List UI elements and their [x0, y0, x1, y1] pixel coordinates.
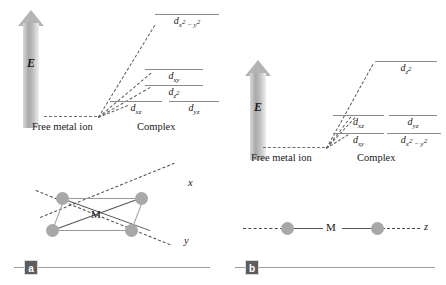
footer-rule-b	[235, 267, 435, 268]
panel-badge-a: a	[24, 260, 38, 275]
linear-geometry: M z	[223, 195, 446, 250]
bond-top	[62, 198, 141, 199]
axis-z-dashed-left	[243, 228, 283, 229]
level-label-dxy-b: dxy	[333, 134, 384, 148]
level-label-dz2-b: dz2	[375, 62, 437, 76]
axis-label-z: z	[424, 221, 428, 232]
free-metal-ion-label-b: Free metal ion	[251, 152, 312, 163]
energy-axis-label-b: E	[247, 100, 269, 115]
level-label-dx2-y2-b: dx2 − y2	[387, 134, 441, 148]
axis-z-dashed-right	[382, 228, 420, 229]
ligand-node	[371, 222, 384, 235]
level-label-dyz-b: dyz	[389, 116, 437, 130]
bond-bottom	[52, 230, 131, 231]
metal-center-label-a: M	[91, 208, 101, 220]
ligand-node	[56, 192, 69, 205]
level-label-dxy-a: dxy	[145, 70, 203, 84]
axis-label-x: x	[188, 177, 193, 188]
complex-label-b: Complex	[357, 152, 396, 163]
free-ion-baseline-b	[263, 147, 325, 148]
ligand-node	[125, 224, 138, 237]
complex-label-a: Complex	[137, 121, 176, 132]
panel-linear: E dz2 dxz dyz dxy dx2 − y2 Free metal io…	[223, 0, 446, 285]
energy-axis-arrow-a: E	[18, 10, 44, 128]
arrow-shaft	[23, 23, 39, 128]
ligand-node	[135, 192, 148, 205]
level-label-dx2-y2-a: dx2 − y2	[155, 15, 219, 29]
level-label-dxz-b: dxz	[333, 116, 384, 130]
energy-axis-label-a: E	[20, 56, 42, 71]
free-ion-baseline-a	[44, 116, 97, 117]
energy-axis-arrow-b: E	[245, 60, 271, 160]
panel-badge-b: b	[245, 260, 259, 275]
footer-rule-a	[14, 267, 210, 268]
panel-square-planar: E dx2 − y2 dxy dz2 dxz dyz Free metal io…	[0, 0, 223, 285]
level-label-dxz-a: dxz	[110, 102, 162, 116]
level-label-dyz-a: dyz	[169, 102, 219, 116]
square-planar-geometry: M x y	[0, 160, 223, 250]
free-metal-ion-label-a: Free metal ion	[32, 121, 93, 132]
level-label-dz2-a: dz2	[145, 86, 203, 100]
bond-left-linear	[291, 228, 323, 229]
ligand-node	[46, 224, 59, 237]
axis-label-y: y	[184, 235, 189, 246]
ligand-node	[281, 222, 294, 235]
metal-center-label-b: M	[326, 221, 336, 233]
bond-right-linear	[342, 228, 374, 229]
